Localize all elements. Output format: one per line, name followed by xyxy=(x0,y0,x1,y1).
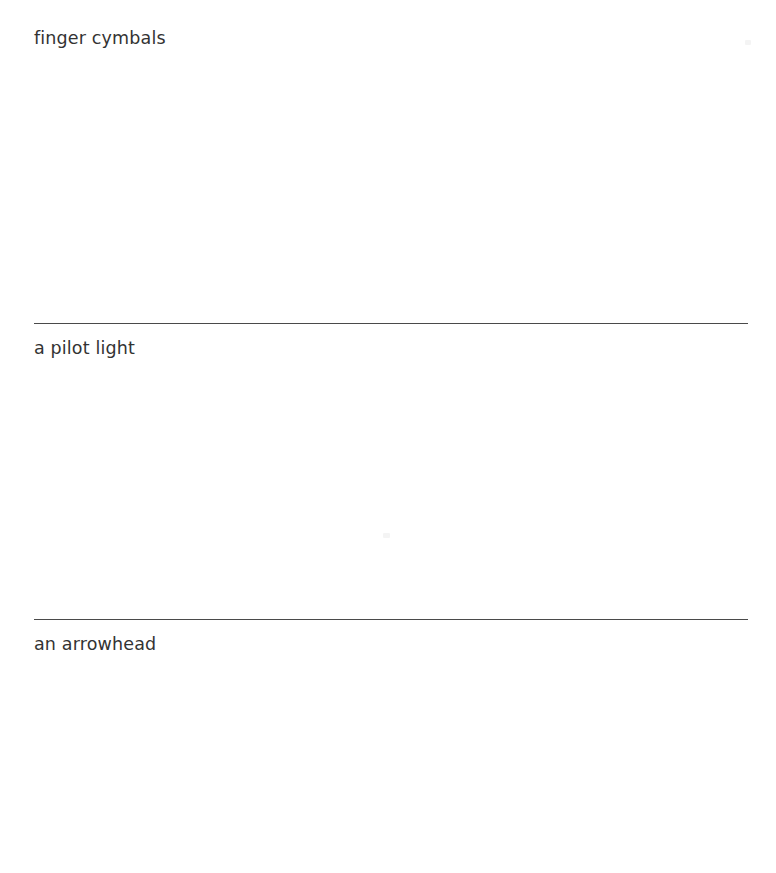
entry-answer-space[interactable] xyxy=(34,662,748,873)
scan-artifact xyxy=(383,533,390,538)
document-page: finger cymbals a pilot light an arrowhea… xyxy=(0,0,776,873)
entry-label: finger cymbals xyxy=(34,30,166,48)
entry-label: an arrowhead xyxy=(34,636,156,654)
entry-separator-rule xyxy=(34,619,748,620)
scan-artifact xyxy=(745,40,751,45)
entry-answer-space[interactable] xyxy=(34,366,748,618)
entry-label: a pilot light xyxy=(34,340,135,358)
entry-separator-rule xyxy=(34,323,748,324)
entry-answer-space[interactable] xyxy=(34,56,748,322)
